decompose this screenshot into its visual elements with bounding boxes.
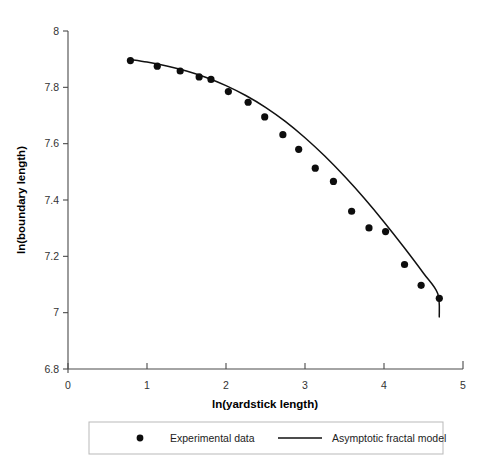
x-tick-label: 2	[223, 379, 229, 391]
data-point	[279, 131, 286, 138]
legend-marker-experimental-data-icon	[137, 435, 144, 442]
data-point	[177, 67, 184, 74]
y-tick-label: 7.8	[44, 81, 59, 93]
y-tick-label: 7	[53, 306, 59, 318]
x-tick-label: 3	[302, 379, 308, 391]
data-point	[436, 295, 443, 302]
data-point	[418, 282, 425, 289]
x-tick-label: 5	[460, 379, 466, 391]
y-axis-title: ln(boundary length)	[15, 146, 27, 254]
data-point	[312, 165, 319, 172]
data-point	[261, 113, 268, 120]
data-point	[154, 63, 161, 70]
x-tick-label: 0	[65, 379, 71, 391]
data-point	[207, 76, 214, 83]
x-axis-title: ln(yardstick length)	[212, 398, 318, 410]
data-point	[225, 88, 232, 95]
y-tick-label: 7.2	[44, 250, 59, 262]
data-point	[401, 261, 408, 268]
scatter-plot-svg: 6.877.27.47.67.88 012345 ln(yardstick le…	[0, 0, 483, 473]
x-tick-label: 4	[381, 379, 387, 391]
y-tick-label: 8	[53, 25, 59, 37]
data-point	[127, 57, 134, 64]
legend-label-experimental-data: Experimental data	[170, 432, 255, 444]
y-tick-label: 6.8	[44, 363, 59, 375]
chart-legend: Experimental data Asymptotic fractal mod…	[89, 422, 446, 454]
data-point	[245, 99, 252, 106]
data-point	[196, 73, 203, 80]
x-tick-label: 1	[144, 379, 150, 391]
y-tick-label: 7.6	[44, 137, 59, 149]
data-point	[348, 208, 355, 215]
chart-figure: 6.877.27.47.67.88 012345 ln(yardstick le…	[0, 0, 483, 473]
data-point	[295, 146, 302, 153]
data-point	[365, 224, 372, 231]
legend-label-asymptotic-fractal-model: Asymptotic fractal model	[332, 432, 446, 444]
data-point	[330, 178, 337, 185]
data-point	[382, 228, 389, 235]
y-tick-label: 7.4	[44, 194, 59, 206]
